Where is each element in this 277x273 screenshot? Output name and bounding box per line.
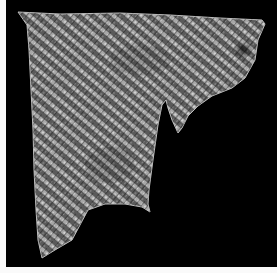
- photo-frame: [6, 0, 277, 267]
- fabric-shape: [18, 12, 265, 258]
- fabric-hole: [233, 41, 253, 59]
- textile-fragment-photo: [6, 0, 277, 267]
